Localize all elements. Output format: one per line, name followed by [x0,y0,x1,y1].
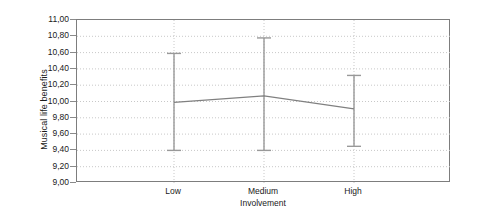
y-tick-label: 9,80 [30,112,69,122]
y-tick-mark [70,84,76,85]
y-tick-mark [70,133,76,134]
chart-figure: Musical life benefits 11,0010,8010,6010,… [0,0,479,219]
y-tick-mark [70,52,76,53]
y-tick-label: 9,00 [30,177,69,187]
y-tick-mark [70,101,76,102]
y-tick-mark [70,35,76,36]
error-bar-high [347,75,361,146]
plot-svg [77,20,451,183]
y-tick-label: 9,20 [30,161,69,171]
x-axis-title: Involvement [240,198,286,208]
y-tick-mark [70,149,76,150]
y-axis-tick-labels: 11,0010,8010,6010,4010,2010,009,809,609,… [30,0,69,219]
y-tick-label: 10,40 [30,63,69,73]
x-tick-label-high: High [344,186,361,196]
x-tick-label-medium: Medium [248,186,278,196]
y-tick-label: 10,00 [30,96,69,106]
y-tick-label: 10,60 [30,47,69,57]
y-tick-label: 10,20 [30,79,69,89]
y-tick-mark [70,117,76,118]
plot-area [76,19,450,182]
y-tick-mark [70,19,76,20]
y-tick-label: 11,00 [30,14,69,24]
x-tick-label-low: Low [165,186,181,196]
y-tick-mark [70,68,76,69]
y-tick-mark [70,182,76,183]
error-bar-medium [257,38,271,150]
y-tick-label: 10,80 [30,30,69,40]
y-tick-mark [70,166,76,167]
y-tick-label: 9,60 [30,128,69,138]
y-tick-label: 9,40 [30,144,69,154]
